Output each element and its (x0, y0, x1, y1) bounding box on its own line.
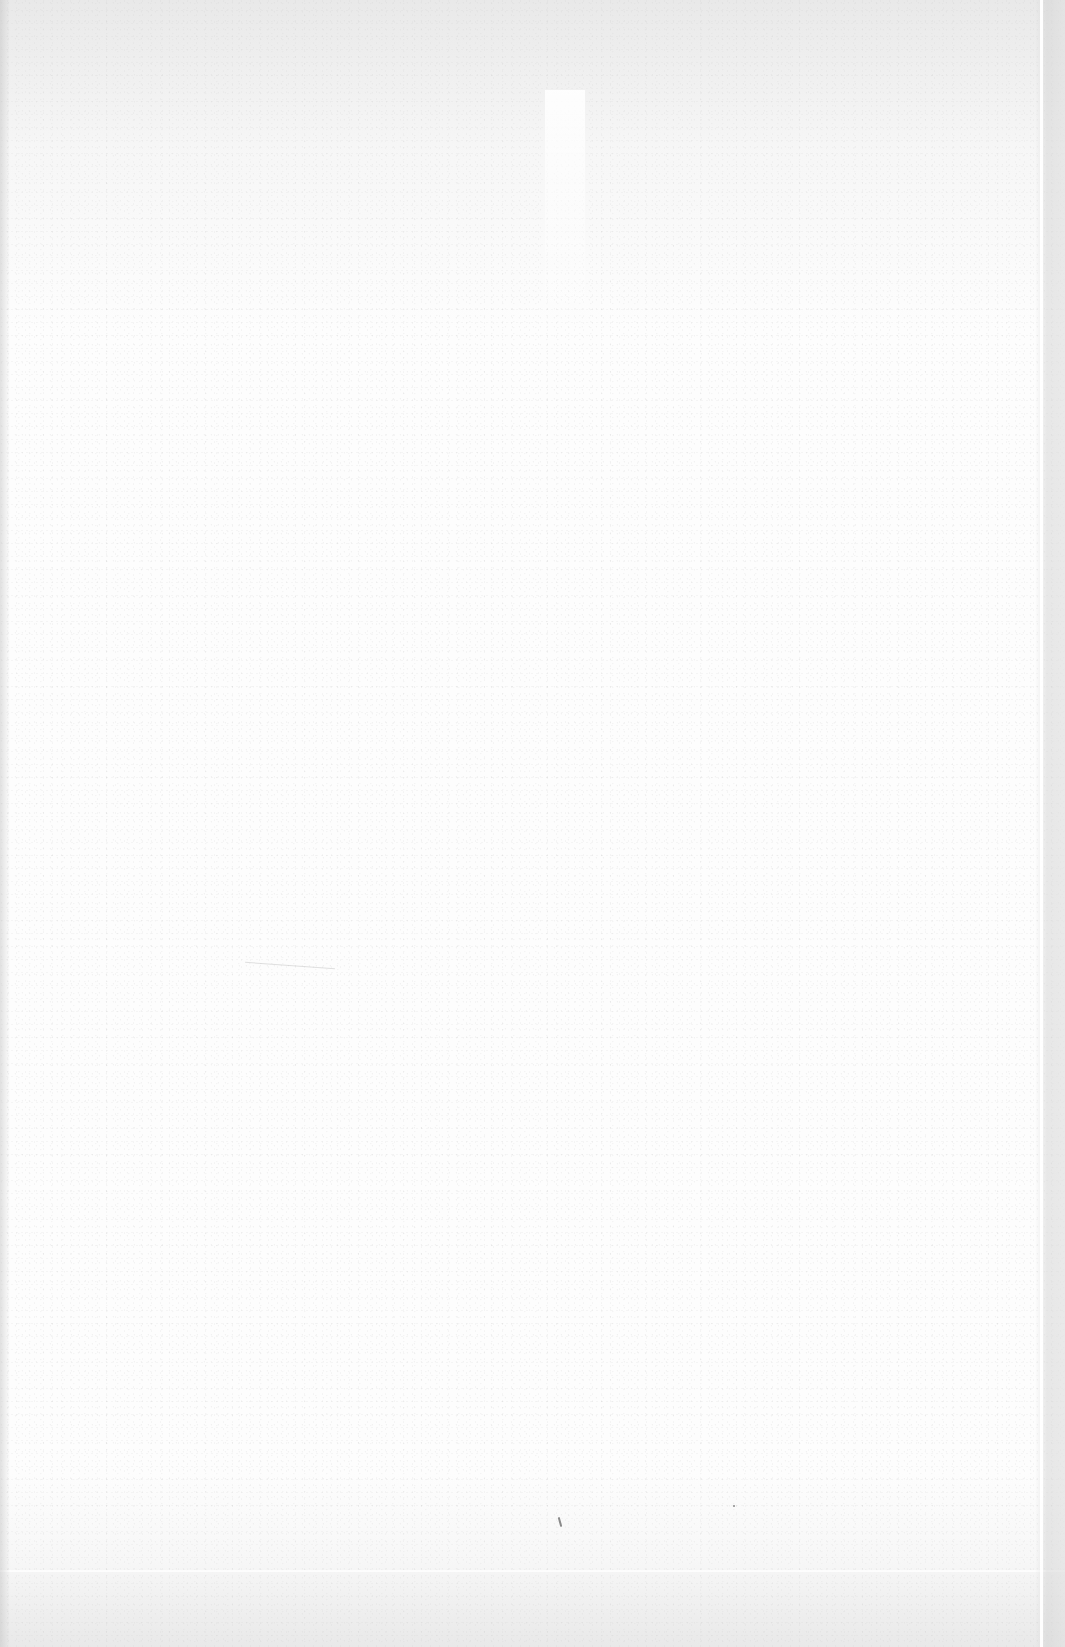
left-page-edge (0, 0, 10, 1647)
dust-speck (733, 1505, 735, 1507)
scanned-page (0, 0, 1065, 1647)
light-streak (545, 90, 585, 350)
bottom-band-edge (0, 1570, 1065, 1572)
right-edge-highlight (1040, 0, 1043, 1647)
top-scan-shadow (0, 0, 1065, 330)
bottom-scan-shadow (0, 1472, 1065, 1647)
